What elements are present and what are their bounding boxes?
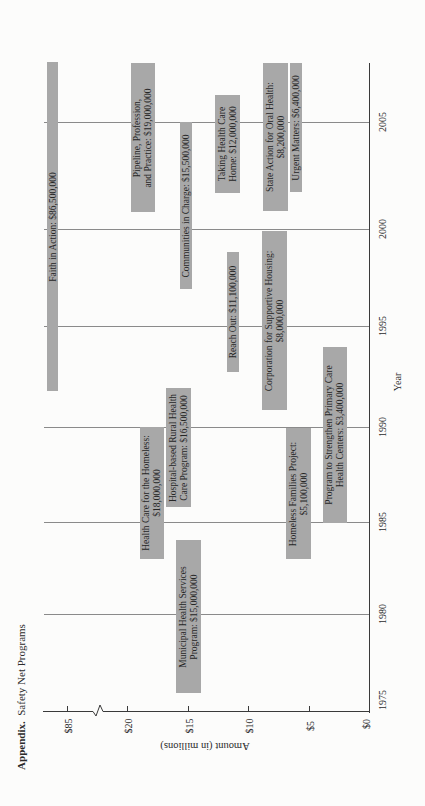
bar-program-strengthen-primary-care: Program to Strengthen Primary CareHealth… (323, 347, 347, 523)
axis-break-icon (43, 705, 370, 717)
bar-label: Urgent Matters: $6,400,000 (291, 75, 301, 180)
bar-communities-in-charge: Communities in Charge: $15,500,000 (180, 122, 192, 289)
y-tick-label: $15 (184, 719, 195, 734)
bar-label: Pipeline, Profession, (132, 98, 142, 176)
bar-label: Program to Strengthen Primary Care (324, 365, 334, 504)
y-axis-label: Amount (in millions) (160, 741, 249, 752)
title-prefix: Appendix. (15, 721, 27, 770)
gridline-2005 (44, 122, 369, 123)
y-tick-label: $0 (361, 719, 372, 729)
tick-15 (188, 706, 189, 712)
bar-label: Corporation for Supportive Housing: (264, 250, 274, 391)
gridline-1995 (44, 326, 369, 327)
y-tick-label: $10 (244, 719, 255, 734)
chart-title: Appendix. Safety Net Programs (15, 624, 27, 770)
tick-5 (309, 706, 310, 712)
bar-label: Home: $12,000,000 (228, 106, 238, 182)
bar-label: Health Centers: $3,400,000 (335, 383, 345, 487)
bar-label: and Practice: $19,000,000 (143, 88, 153, 187)
bar-label: Homeless Families Project: (288, 441, 298, 546)
bar-reach-out: Reach Out: $11,100,000 (227, 252, 239, 372)
bar-corporation-supportive-housing: Corporation for Supportive Housing:$8,00… (262, 231, 287, 410)
bar-label: $18,000,000 (152, 469, 162, 517)
bar-pipeline: Pipeline, Profession,and Practice: $19,0… (131, 63, 155, 212)
bar-label: Faith in Action: $86,500,000 (47, 172, 57, 282)
x-tick-label: 1990 (377, 417, 388, 437)
bar-taking-health-care-home: Taking Health CareHome: $12,000,000 (215, 95, 240, 193)
bar-label: Taking Health Care (217, 107, 227, 181)
x-tick-label: 1975 (377, 690, 388, 710)
gridline-1980 (44, 614, 369, 615)
tick-10 (248, 706, 249, 712)
year-axis-line (369, 63, 370, 713)
x-tick-label: 1985 (377, 512, 388, 532)
tick-85 (67, 706, 68, 712)
bar-label: Communities in Charge: $15,500,000 (181, 134, 191, 277)
bar-state-action-oral-health: State Action for Oral Health:$8,200,000 (263, 63, 288, 211)
bar-health-care-homeless: Health Care for the Homeless:$18,000,000 (140, 427, 164, 559)
x-tick-label: 1980 (377, 604, 388, 624)
y-tick-label: $5 (305, 721, 316, 731)
gridline-2000 (44, 229, 369, 230)
tick-20 (127, 706, 128, 712)
bar-label: Health Care for the Homeless: (141, 435, 151, 551)
x-axis-label: Year (392, 373, 403, 391)
y-tick-label: $85 (63, 719, 74, 734)
bar-label: $5,100,000 (299, 472, 309, 515)
bar-label: $8,200,000 (276, 116, 286, 159)
bar-municipal-health-services: Municipal Health ServicesProgram: $15,00… (176, 540, 201, 693)
bar-faith-in-action: Faith in Action: $86,500,000 (47, 62, 58, 391)
bar-urgent-matters: Urgent Matters: $6,400,000 (290, 63, 302, 192)
bar-label: Hospital-based Rural Health (168, 393, 178, 501)
bar-label: Reach Out: $11,100,000 (228, 266, 238, 359)
bar-label: Care Program: $16,500,000 (179, 395, 189, 501)
x-tick-label: 2005 (377, 112, 388, 132)
x-tick-label: 2000 (377, 219, 388, 239)
bar-hospital-based-rural-health: Hospital-based Rural HealthCare Program:… (166, 388, 191, 507)
gridline-1985 (44, 522, 369, 523)
bar-label: $8,000,000 (275, 299, 285, 342)
y-tick-label: $20 (123, 719, 134, 734)
bar-label: Municipal Health Services (178, 566, 188, 667)
bar-homeless-families-project: Homeless Families Project:$5,100,000 (286, 428, 311, 559)
title-text: Safety Net Programs (15, 624, 27, 716)
x-tick-label: 1995 (377, 316, 388, 336)
bar-label: Program: $15,000,000 (189, 574, 199, 659)
gridline-1990 (44, 427, 369, 428)
bar-label: State Action for Oral Health: (265, 82, 275, 192)
amount-axis-line (43, 711, 370, 723)
